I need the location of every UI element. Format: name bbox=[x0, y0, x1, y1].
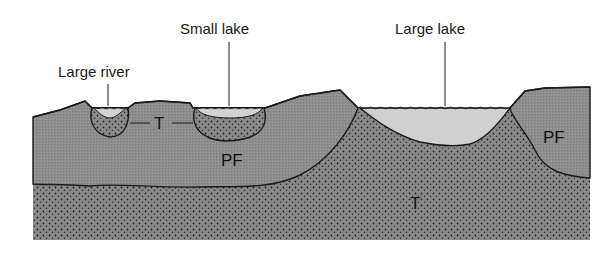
label-large-river: Large river bbox=[58, 63, 130, 80]
label-talik-deep: T bbox=[410, 194, 420, 214]
label-talik-shallow: T bbox=[154, 114, 164, 134]
label-large-lake: Large lake bbox=[395, 20, 465, 37]
label-small-lake: Small lake bbox=[180, 20, 249, 37]
permafrost-cross-section bbox=[0, 0, 611, 263]
label-permafrost-right: PF bbox=[543, 128, 565, 148]
label-permafrost-left: PF bbox=[221, 151, 243, 171]
